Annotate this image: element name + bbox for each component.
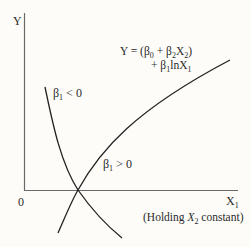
log-model-diagram: Y 0 X1 Y = (β0 + β2X2) + β1lnX1 β1 < 0 β… xyxy=(0,0,251,247)
origin-label: 0 xyxy=(18,196,24,208)
eq-text: lnX xyxy=(170,59,187,71)
eq-text: Y = (β xyxy=(120,45,150,57)
x-axis-label: X1 xyxy=(226,195,239,210)
note-text: (Holding xyxy=(143,211,187,223)
x-axis-var: X xyxy=(226,194,235,208)
eq-sub: 1 xyxy=(187,65,191,74)
label-text: < 0 xyxy=(63,86,82,100)
eq-text: + β xyxy=(154,45,172,57)
diagram-plot xyxy=(0,0,251,247)
label-beta1-negative: β1 < 0 xyxy=(53,87,82,102)
note-text: constant) xyxy=(198,211,243,223)
y-axis-label: Y xyxy=(13,15,22,27)
label-text: > 0 xyxy=(113,157,132,171)
eq-text: X xyxy=(176,45,184,57)
curve-beta1-positive xyxy=(58,60,230,233)
equation-line-2: + β1lnX1 xyxy=(151,59,191,76)
holding-note: (Holding X2 constant) xyxy=(143,212,243,226)
label-beta1-positive: β1 > 0 xyxy=(103,158,132,173)
eq-text: ) xyxy=(188,45,192,57)
x-axis-sub: 1 xyxy=(235,201,239,210)
eq-text: + β xyxy=(151,59,166,71)
